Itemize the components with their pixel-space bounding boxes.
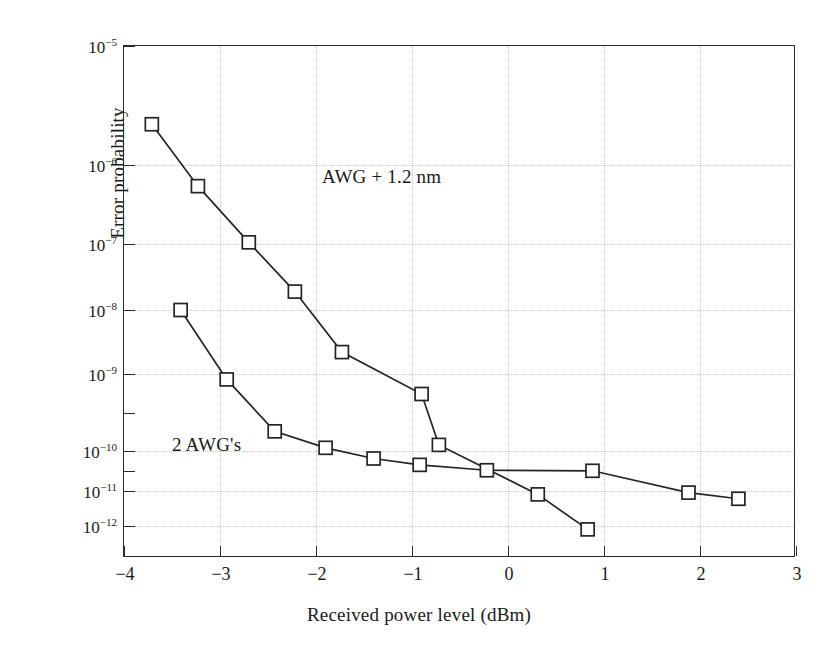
y-tick-label: 10−5 bbox=[88, 39, 117, 56]
series-annotation-1: AWG + 1.2 nm bbox=[322, 166, 441, 188]
data-point-marker bbox=[288, 285, 301, 298]
data-point-marker bbox=[732, 492, 745, 505]
x-tick-mark: 3 bbox=[796, 546, 797, 556]
x-axis-title: Received power level (dBm) bbox=[0, 604, 838, 626]
data-point-marker bbox=[174, 304, 187, 317]
data-point-marker bbox=[191, 180, 204, 193]
x-tick-label: −1 bbox=[403, 565, 422, 583]
data-point-marker bbox=[432, 438, 445, 451]
y-tick-label: 10−8 bbox=[88, 303, 117, 320]
data-point-marker bbox=[531, 488, 544, 501]
x-tick-label: −3 bbox=[211, 565, 230, 583]
x-tick-label: 3 bbox=[793, 565, 802, 583]
x-tick-label: 0 bbox=[505, 565, 514, 583]
data-point-marker bbox=[581, 523, 594, 536]
data-point-marker bbox=[413, 458, 426, 471]
x-tick-label: −2 bbox=[307, 565, 326, 583]
data-point-marker bbox=[145, 118, 158, 131]
data-point-marker bbox=[220, 373, 233, 386]
data-point-marker bbox=[586, 464, 599, 477]
series-layer bbox=[124, 46, 796, 558]
x-tick-label: −4 bbox=[115, 565, 134, 583]
data-point-marker bbox=[480, 464, 493, 477]
data-point-marker bbox=[682, 486, 695, 499]
series-line bbox=[181, 310, 739, 499]
figure-container: Error probability Received power level (… bbox=[0, 0, 838, 646]
data-point-marker bbox=[319, 441, 332, 454]
y-tick-label: 10−12 bbox=[83, 519, 117, 536]
y-tick-label: 10−11 bbox=[83, 484, 117, 501]
plot-area: 10−510−610−710−810−910−1010−1110−12 −4−3… bbox=[123, 45, 795, 557]
y-tick-label: 10−10 bbox=[83, 444, 117, 461]
data-point-marker bbox=[268, 425, 281, 438]
y-tick-label: 10−6 bbox=[88, 158, 117, 175]
y-tick-label: 10−7 bbox=[88, 237, 117, 254]
x-tick-label: 1 bbox=[601, 565, 610, 583]
data-point-marker bbox=[415, 387, 428, 400]
data-point-marker bbox=[242, 236, 255, 249]
data-point-marker bbox=[367, 452, 380, 465]
x-tick-label: 2 bbox=[697, 565, 706, 583]
y-tick-label: 10−9 bbox=[88, 367, 117, 384]
series-annotation-2: 2 AWG's bbox=[172, 434, 241, 456]
series-2 bbox=[174, 304, 745, 506]
data-point-marker bbox=[335, 346, 348, 359]
